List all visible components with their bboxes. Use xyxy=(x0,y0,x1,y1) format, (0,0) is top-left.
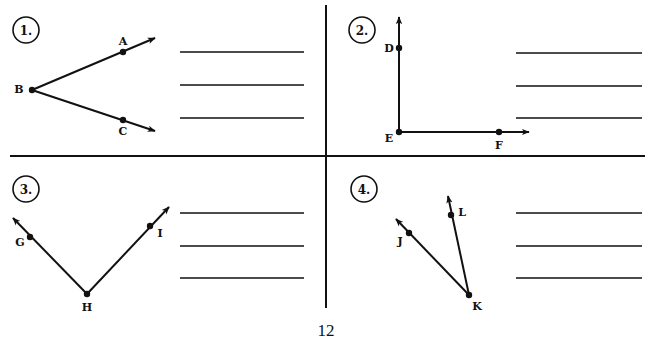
ray-BA xyxy=(32,38,155,90)
label-K: K xyxy=(472,300,482,313)
label-I: I xyxy=(157,227,162,240)
label-B: B xyxy=(14,83,23,96)
label-E: E xyxy=(385,132,393,145)
point-E xyxy=(396,129,402,135)
label-J: J xyxy=(396,235,402,248)
label-A: A xyxy=(118,35,128,48)
point-B xyxy=(29,87,35,93)
problem-4: 4. J K L xyxy=(351,176,642,313)
point-C xyxy=(120,117,126,123)
problem-1: 1. A B C xyxy=(13,17,304,138)
point-G xyxy=(27,234,33,240)
label-D: D xyxy=(384,42,394,55)
page-number: 12 xyxy=(318,321,335,340)
label-F: F xyxy=(495,139,503,152)
point-K xyxy=(466,292,472,298)
point-L xyxy=(448,212,454,218)
problem-2: 2. D E F xyxy=(349,17,642,152)
label-G: G xyxy=(15,236,24,249)
worksheet-canvas: 1. A B C 2. D E F 3. G xyxy=(0,0,651,340)
label-H: H xyxy=(82,301,92,314)
problem-number: 4. xyxy=(358,183,371,197)
ray-HG xyxy=(13,218,87,294)
point-I xyxy=(147,223,153,229)
problem-3: 3. G H I xyxy=(13,176,304,314)
label-C: C xyxy=(119,125,128,138)
problem-number: 1. xyxy=(20,24,33,38)
ray-KJ xyxy=(396,219,469,295)
ray-BC xyxy=(32,90,155,131)
point-D xyxy=(396,45,402,51)
point-A xyxy=(120,49,126,55)
point-F xyxy=(496,129,502,135)
point-H xyxy=(84,291,90,297)
ray-HI xyxy=(87,207,169,294)
problem-number: 3. xyxy=(20,183,33,197)
label-L: L xyxy=(458,206,466,219)
problem-number: 2. xyxy=(356,24,369,38)
point-J xyxy=(406,230,412,236)
